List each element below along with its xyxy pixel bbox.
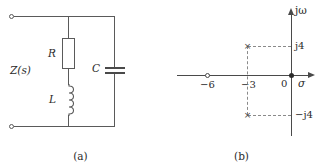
wire-middle-mid <box>68 69 69 85</box>
dashed-line-horizontal-minus-j4 <box>248 115 291 116</box>
capacitor-label: C <box>92 62 100 74</box>
circuit-panel: R L C Z(s) (a) <box>0 0 161 168</box>
caption-a: (a) <box>0 150 161 162</box>
wire-cap-upper <box>114 16 115 67</box>
zero-marker-minus-six <box>205 73 210 78</box>
pole-zero-panel: jω σ 0 −6 −3 × × j4 −j4 (b) <box>161 0 322 168</box>
inductor-symbol <box>62 84 76 116</box>
real-axis-label: σ <box>298 77 305 89</box>
tick-label-minus-three: −3 <box>241 79 256 90</box>
wire-bottom <box>14 126 115 127</box>
origin-dot <box>289 73 294 78</box>
figure-container: R L C Z(s) (a) jω σ 0 −6 −3 <box>0 0 322 168</box>
capacitor-plate-bottom <box>105 72 125 74</box>
tick-label-minus-six: −6 <box>200 79 215 90</box>
dashed-line-horizontal-j4 <box>248 46 291 47</box>
resistor-symbol <box>62 38 75 69</box>
origin-label: 0 <box>281 78 287 89</box>
pole-marker-lower: × <box>243 111 252 120</box>
imag-axis-label: jω <box>295 4 307 16</box>
wire-cap-lower <box>114 74 115 126</box>
dashed-line-vertical-minus-three <box>247 46 248 115</box>
tick-label-j4: j4 <box>295 40 304 51</box>
wire-middle-upper <box>68 16 69 38</box>
pole-marker-upper: × <box>243 42 252 51</box>
capacitor-plate-top <box>105 67 125 69</box>
inductor-label: L <box>49 93 56 105</box>
tick-label-minus-j4: −j4 <box>295 109 313 120</box>
imag-axis-arrow <box>288 8 294 15</box>
impedance-label: Z(s) <box>10 64 31 76</box>
real-axis-arrow <box>308 72 315 78</box>
wire-top <box>14 16 115 17</box>
wire-middle-lower <box>68 115 69 126</box>
resistor-label: R <box>48 47 56 59</box>
caption-b: (b) <box>161 150 322 162</box>
